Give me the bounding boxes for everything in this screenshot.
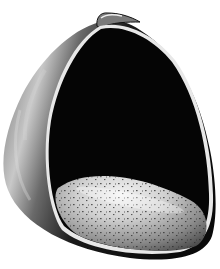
shell-illustration: Black-and-white drawing of a cup-shaped … xyxy=(0,0,220,269)
shell-drawing xyxy=(0,0,220,269)
